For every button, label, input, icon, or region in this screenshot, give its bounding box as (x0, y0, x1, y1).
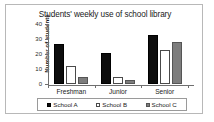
legend-label: School A (53, 101, 77, 108)
chart-title: Students' weekly use of school library (6, 10, 204, 19)
legend-label: School B (102, 101, 127, 108)
y-tick-label: 0 (26, 81, 42, 87)
x-axis-line (48, 85, 194, 86)
y-tick-label: 10 (26, 66, 42, 72)
bar-school-b-junior (113, 77, 123, 85)
legend-label: School C (152, 101, 177, 108)
bar-school-a-senior (148, 35, 158, 85)
y-tick-label: 30 (26, 36, 42, 42)
bar-school-a-junior (101, 53, 111, 85)
legend-swatch-icon (96, 103, 100, 107)
legend-swatch-icon (47, 103, 51, 107)
x-category-label: Senior (135, 88, 195, 95)
chart-container: Students' weekly use of school library N… (5, 4, 203, 114)
y-tick-label: 40 (26, 21, 42, 27)
legend-swatch-icon (146, 103, 150, 107)
legend-entry[interactable]: School C (146, 101, 177, 108)
bar-school-c-senior (172, 42, 182, 84)
bar-school-c-junior (125, 80, 135, 85)
y-tick-label: 20 (26, 51, 42, 57)
bar-school-a-freshman (54, 44, 64, 85)
bar-school-b-freshman (66, 66, 76, 84)
bar-school-c-freshman (78, 77, 88, 85)
legend-entry[interactable]: School A (47, 101, 77, 108)
legend-entry[interactable]: School B (96, 101, 127, 108)
bar-school-b-senior (160, 50, 170, 85)
chart-legend: School ASchool BSchool C (37, 98, 187, 111)
plot-area (48, 24, 188, 84)
